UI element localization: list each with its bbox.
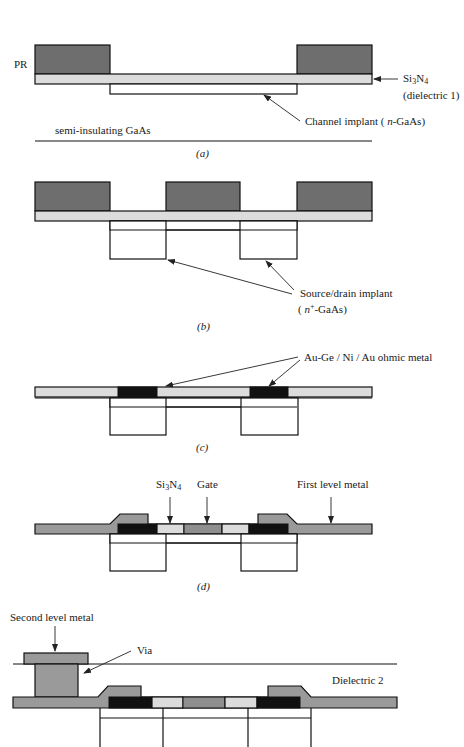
channel-arrow-icon [264, 95, 300, 121]
photoresist-right [297, 45, 372, 74]
ohmic-metal-right [257, 697, 300, 708]
photoresist-right [297, 182, 372, 211]
nitride-segment-left [157, 524, 184, 534]
ohmic-arrow-left-icon [166, 357, 298, 386]
source-arrow-icon [168, 260, 292, 294]
via-plug [35, 664, 78, 697]
ohmic-metal-right [249, 524, 288, 534]
first-metal-label: First level metal [297, 478, 368, 490]
nitride-label: Si3N4 [403, 72, 428, 86]
panel-e: Second level metal Via Dielectric 2 [10, 611, 397, 747]
photoresist-left [35, 45, 110, 74]
drain-implant [241, 534, 297, 571]
caption-d: (d) [197, 580, 210, 593]
via-arrow-icon [84, 651, 131, 673]
panel-c: Au-Ge / Ni / Au ohmic metal (c) [35, 351, 432, 454]
pr-label: PR [14, 58, 28, 70]
nitride-sub-label: (dielectric 1) [403, 89, 460, 102]
nitride-layer [35, 387, 372, 397]
channel-implant [110, 84, 297, 94]
source-drain-sub-label: ( n+-GaAs) [298, 302, 347, 316]
gate-metal [183, 697, 225, 708]
gate-label: Gate [197, 478, 218, 490]
panel-a: PR Si3N4 (dielectric 1) Channel implant … [14, 45, 460, 160]
source-implant [110, 534, 166, 571]
gate-metal [184, 524, 222, 534]
drain-implant [241, 398, 298, 435]
source-implant [110, 221, 166, 259]
dielectric2-label: Dielectric 2 [332, 674, 384, 686]
caption-b: (b) [197, 320, 210, 333]
nitride-layer [35, 211, 372, 221]
ohmic-metal-right [250, 387, 288, 397]
ohmic-metal-left [118, 524, 157, 534]
nitride-segment-left [152, 697, 183, 708]
channel-label: Channel implant ( n-GaAs) [305, 115, 425, 128]
second-level-metal [24, 653, 88, 664]
nitride-layer [35, 74, 372, 84]
nitride-segment-right [225, 697, 257, 708]
ohmic-label: Au-Ge / Ni / Au ohmic metal [304, 351, 432, 363]
panel-b: Source/drain implant ( n+-GaAs) (b) [35, 182, 393, 333]
nitride-label: Si3N4 [156, 478, 181, 492]
panel-d: Si3N4 Gate First level metal (d) [35, 478, 372, 593]
ohmic-metal-left [118, 387, 157, 397]
caption-c: (c) [196, 441, 209, 454]
drain-implant [240, 221, 297, 259]
nitride-segment-right [222, 524, 249, 534]
photoresist-middle [166, 182, 240, 211]
source-implant [110, 398, 166, 435]
via-label: Via [137, 644, 152, 656]
process-flow-diagram: PR Si3N4 (dielectric 1) Channel implant … [0, 0, 464, 747]
ohmic-arrow-right-icon [269, 360, 300, 386]
second-metal-label: Second level metal [10, 611, 94, 623]
substrate-label: semi-insulating GaAs [55, 124, 151, 136]
source-drain-label: Source/drain implant [300, 287, 393, 299]
caption-a: (a) [196, 147, 209, 160]
ohmic-metal-left [109, 697, 152, 708]
photoresist-left [35, 182, 110, 211]
drain-arrow-icon [266, 261, 294, 290]
